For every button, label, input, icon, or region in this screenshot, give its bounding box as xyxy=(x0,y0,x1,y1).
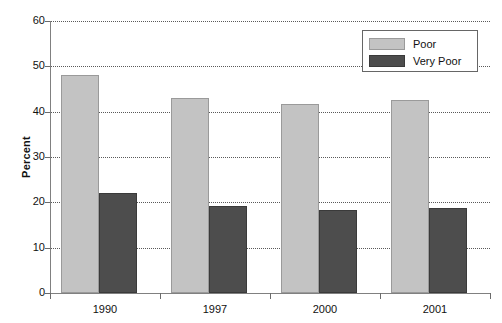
bar-1997-poor xyxy=(171,98,209,293)
bar-2000-poor xyxy=(281,104,319,293)
bar-2000-very-poor xyxy=(319,210,357,293)
bar-2001-poor xyxy=(391,100,429,293)
y-tick-label-text: 40 xyxy=(5,106,45,117)
y-tick-label: 10 xyxy=(0,242,45,253)
x-tick-separator xyxy=(50,293,51,299)
y-tick-label: 40 xyxy=(0,106,45,117)
y-tick-label-text: 60 xyxy=(5,15,45,26)
y-tick-label: 30 xyxy=(0,151,45,162)
bar-1990-very-poor xyxy=(99,193,137,293)
legend-swatch-icon xyxy=(369,38,405,50)
x-tick-separator xyxy=(270,293,271,299)
y-tick-label-text: 10 xyxy=(5,242,45,253)
bar-2001-very-poor xyxy=(429,208,467,293)
x-tick-label-2001: 2001 xyxy=(380,303,490,315)
legend-swatch-icon xyxy=(369,55,405,67)
bar-1997-very-poor xyxy=(209,206,247,293)
y-tick-label: 20 xyxy=(0,196,45,207)
legend-item-very-poor[interactable]: Very Poor xyxy=(369,53,471,68)
x-tick-label-1990: 1990 xyxy=(50,303,160,315)
x-tick-label-2000: 2000 xyxy=(270,303,380,315)
bar-1990-poor xyxy=(61,75,99,293)
legend-item-poor[interactable]: Poor xyxy=(369,36,471,51)
y-tick-label: 50 xyxy=(0,60,45,71)
y-tick-label-text: 30 xyxy=(5,151,45,162)
legend-label: Very Poor xyxy=(413,55,461,67)
chart-legend: PoorVery Poor xyxy=(362,30,478,72)
x-tick-separator xyxy=(380,293,381,299)
y-tick-label: 60 xyxy=(0,15,45,26)
legend-label: Poor xyxy=(413,38,436,50)
bar-chart: Percent 6050403020100 1990199720002001 P… xyxy=(0,0,502,323)
x-tick-label-1997: 1997 xyxy=(160,303,270,315)
y-tick-label-text: 50 xyxy=(5,60,45,71)
y-tick-label-text: 20 xyxy=(5,196,45,207)
x-tick-separator xyxy=(160,293,161,299)
y-tick-label: 0 xyxy=(0,287,45,298)
x-tick-separator xyxy=(490,293,491,299)
y-tick-label-text: 0 xyxy=(5,287,45,298)
